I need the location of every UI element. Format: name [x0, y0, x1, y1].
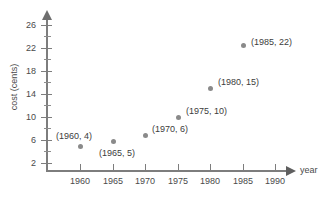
- y-axis-line: [46, 18, 48, 172]
- y-tick-mark: [41, 48, 52, 49]
- data-point-marker: [208, 86, 213, 91]
- x-tick-mark: [243, 164, 244, 172]
- y-tick-label: 18: [16, 67, 36, 76]
- y-tick-mark-minor: [44, 151, 51, 152]
- data-point-label: (1970, 6): [152, 124, 188, 134]
- x-tick-mark: [145, 164, 146, 172]
- y-tick-label: 14: [16, 90, 36, 99]
- x-tick-mark: [80, 164, 81, 172]
- x-tick-mark: [178, 164, 179, 172]
- data-point-label: (1985, 22): [251, 37, 292, 47]
- y-tick-mark: [41, 71, 52, 72]
- x-axis-arrow-icon: [286, 166, 296, 176]
- x-tick-mark: [210, 164, 211, 172]
- y-tick-mark-minor: [44, 105, 51, 106]
- data-point-marker: [78, 144, 83, 149]
- y-tick-mark: [41, 94, 52, 95]
- y-tick-label: 22: [16, 44, 36, 53]
- data-point-marker: [111, 139, 116, 144]
- y-tick-mark-minor: [44, 59, 51, 60]
- y-axis-arrow-icon: [42, 10, 52, 20]
- y-tick-mark-minor: [44, 36, 51, 37]
- y-tick-mark-minor: [44, 128, 51, 129]
- x-tick-mark: [275, 164, 276, 172]
- y-tick-label: 2: [16, 159, 36, 168]
- x-tick-mark: [113, 164, 114, 172]
- data-point-marker: [176, 115, 181, 120]
- data-point-label: (1980, 15): [218, 77, 259, 87]
- y-tick-label: 26: [16, 21, 36, 30]
- data-point-marker: [143, 133, 148, 138]
- data-point-label: (1975, 10): [186, 106, 227, 116]
- y-tick-mark: [41, 163, 52, 164]
- y-tick-label: 10: [16, 113, 36, 122]
- data-point-label: (1965, 5): [99, 148, 135, 158]
- x-tick-label: 1990: [255, 176, 295, 186]
- y-tick-mark: [41, 117, 52, 118]
- scatter-plot-figure: cost (cents) year 262218141062 196019651…: [0, 0, 326, 198]
- x-axis-line: [46, 170, 290, 172]
- x-axis-title: year: [300, 165, 318, 175]
- data-point-label: (1960, 4): [56, 131, 92, 141]
- y-tick-mark: [41, 25, 52, 26]
- y-tick-label: 6: [16, 136, 36, 145]
- data-point-marker: [241, 43, 246, 48]
- y-tick-mark-minor: [44, 82, 51, 83]
- y-tick-mark: [41, 140, 52, 141]
